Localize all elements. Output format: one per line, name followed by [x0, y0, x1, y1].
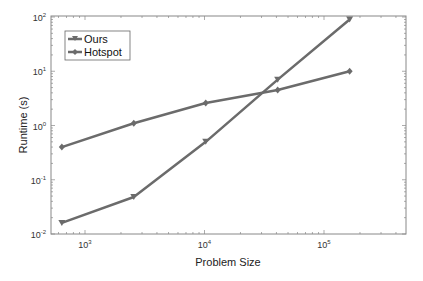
x-axis-label: Problem Size: [195, 256, 260, 268]
legend-label-hotspot: Hotspot: [84, 46, 122, 58]
x-tick-label: 105: [317, 239, 331, 250]
legend: Ours Hotspot: [65, 31, 130, 60]
y-tick-label: 100: [33, 121, 47, 132]
y-tick-label: 10-2: [31, 229, 47, 240]
x-axis-ticks: 103104105: [78, 239, 331, 250]
y-axis-ticks: 10210110010-110-2: [31, 12, 47, 240]
chart: 10210110010-110-2 103104105 Problem Size…: [0, 0, 423, 281]
y-tick-label: 10-1: [31, 175, 47, 186]
y-tick-label: 102: [33, 12, 47, 23]
x-tick-label: 103: [78, 239, 92, 250]
y-tick-label: 101: [33, 66, 47, 77]
legend-label-ours: Ours: [84, 33, 108, 45]
y-axis-label: Runtime (s): [17, 97, 29, 154]
x-tick-label: 104: [198, 239, 212, 250]
